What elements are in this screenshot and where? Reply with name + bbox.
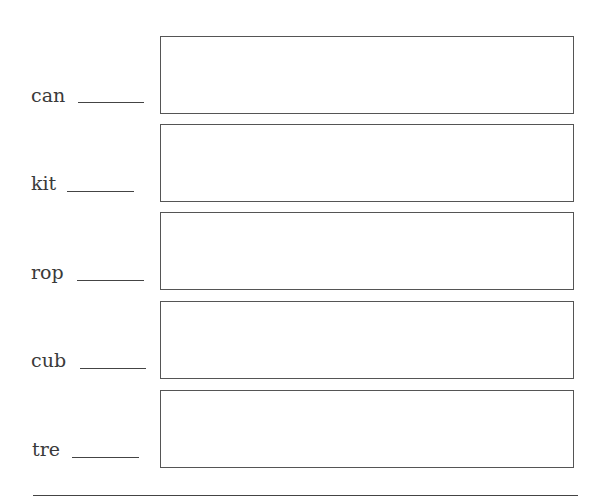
word-label: rop [31, 261, 64, 283]
word-label: kit [31, 172, 56, 194]
drawing-box[interactable] [160, 390, 574, 468]
answer-blank[interactable] [77, 280, 144, 281]
word-label: can [31, 84, 65, 106]
answer-blank[interactable] [67, 191, 134, 192]
drawing-box[interactable] [160, 301, 574, 379]
word-label: cub [31, 349, 66, 371]
drawing-box[interactable] [160, 36, 574, 114]
bottom-divider [33, 495, 578, 496]
answer-blank[interactable] [78, 102, 144, 103]
drawing-box[interactable] [160, 124, 574, 202]
drawing-box[interactable] [160, 212, 574, 290]
answer-blank[interactable] [72, 457, 139, 458]
answer-blank[interactable] [80, 368, 146, 369]
word-label: tre [32, 438, 60, 460]
